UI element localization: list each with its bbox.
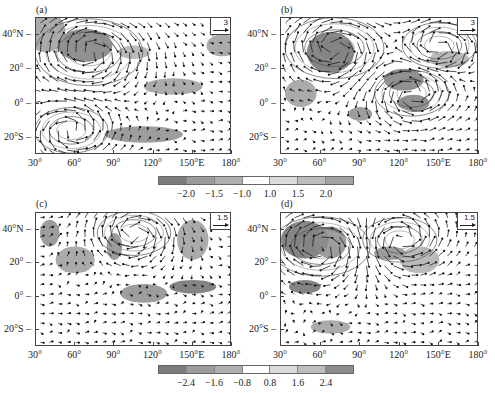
x-tick-mark (35, 150, 36, 154)
x-tick-mark (74, 342, 75, 346)
reference-vector-box-c: 1.5 (210, 213, 230, 230)
reference-arrow-icon (213, 30, 228, 31)
vector-field-plot (281, 213, 478, 346)
colorbar-bottom (158, 365, 354, 374)
y-tick-label: 20° – (0, 62, 31, 73)
x-tick-label: 90° (339, 349, 379, 360)
x-tick-label: 180° (211, 157, 251, 168)
reference-vector-value-c: 1.5 (217, 213, 228, 222)
colorbar-tick-label: 2.4 (311, 377, 341, 388)
colorbar-tick-label: 0.8 (255, 377, 285, 388)
reference-vector-value-b: 3 (471, 18, 475, 27)
y-tick-mark (35, 68, 39, 69)
y-tick-mark (280, 329, 284, 330)
y-tick-mark (280, 137, 284, 138)
x-tick-label: 30° (15, 349, 55, 360)
vector-field-plot (281, 18, 478, 154)
colorbar-segment (326, 177, 353, 184)
x-tick-label: 120° (133, 157, 173, 168)
y-tick-label: 20° – (0, 256, 31, 267)
x-tick-mark (280, 342, 281, 346)
reference-arrow-icon (460, 30, 475, 31)
x-tick-label: 180° (211, 349, 251, 360)
y-tick-label: 20°S – (244, 131, 276, 142)
x-tick-mark (113, 342, 114, 346)
y-tick-mark (35, 229, 39, 230)
vector-field-plot (36, 18, 231, 154)
colorbar-segment (187, 177, 215, 184)
y-tick-mark (35, 296, 39, 297)
y-tick-label: 40°N – (0, 28, 31, 39)
x-tick-mark (399, 342, 400, 346)
vector-field-plot (36, 213, 231, 346)
y-tick-mark (280, 103, 284, 104)
y-tick-label: 0° – (0, 97, 31, 108)
colorbar-segment (270, 366, 298, 373)
colorbar-segment (215, 177, 243, 184)
x-tick-label: 90° (93, 157, 133, 168)
y-tick-mark (35, 34, 39, 35)
y-tick-label: 0° – (244, 97, 276, 108)
x-tick-mark (320, 150, 321, 154)
x-tick-label: 150°E (418, 157, 458, 168)
x-tick-mark (399, 150, 400, 154)
colorbar-segment (270, 177, 298, 184)
y-tick-label: 0° – (244, 290, 276, 301)
x-tick-mark (438, 342, 439, 346)
y-tick-label: 40°N – (244, 28, 276, 39)
y-tick-label: 40°N – (244, 223, 276, 234)
x-tick-label: 60° (300, 157, 340, 168)
colorbar-segment (215, 366, 243, 373)
map-frame-a: 3 (35, 17, 231, 154)
x-tick-mark (359, 150, 360, 154)
y-tick-mark (35, 262, 39, 263)
x-tick-label: 150°E (172, 157, 212, 168)
x-tick-label: 30° (260, 349, 300, 360)
x-tick-mark (74, 150, 75, 154)
x-tick-label: 60° (54, 157, 94, 168)
y-tick-mark (280, 296, 284, 297)
reference-vector-box-a: 3 (210, 18, 230, 35)
colorbar-segment (326, 366, 353, 373)
map-frame-d: 1.5 (280, 212, 478, 346)
y-tick-label: 20°S – (0, 131, 31, 142)
panel-label-c: (c) (36, 198, 47, 209)
map-frame-b: 3 (280, 17, 478, 154)
reference-arrow-icon (460, 225, 475, 226)
y-tick-mark (35, 137, 39, 138)
colorbar-tick-label: −1.5 (199, 188, 229, 199)
x-tick-mark (231, 150, 232, 154)
panel-label-a: (a) (36, 4, 47, 15)
reference-vector-value-d: 1.5 (464, 213, 475, 222)
colorbar-segment (298, 366, 326, 373)
x-tick-mark (192, 342, 193, 346)
x-tick-label: 60° (54, 349, 94, 360)
x-tick-label: 180° (458, 349, 495, 360)
colorbar-segment (298, 177, 326, 184)
colorbar-segment (159, 366, 187, 373)
colorbar-tick-label: 1.6 (283, 377, 313, 388)
y-tick-mark (280, 262, 284, 263)
x-tick-mark (153, 342, 154, 346)
x-tick-mark (478, 342, 479, 346)
colorbar-tick-label: 2.0 (311, 188, 341, 199)
colorbar-segment (159, 177, 187, 184)
panel-label-d: (d) (281, 198, 293, 209)
x-tick-label: 120° (379, 157, 419, 168)
x-tick-label: 150°E (418, 349, 458, 360)
x-tick-label: 120° (133, 349, 173, 360)
y-tick-label: 20°S – (244, 323, 276, 334)
x-tick-mark (359, 342, 360, 346)
y-tick-label: 20°S – (0, 323, 31, 334)
colorbar-tick-label: −2.0 (171, 188, 201, 199)
x-tick-label: 90° (339, 157, 379, 168)
y-tick-mark (35, 329, 39, 330)
x-tick-mark (192, 150, 193, 154)
x-tick-label: 150°E (172, 349, 212, 360)
y-tick-mark (280, 68, 284, 69)
panel-label-b: (b) (281, 4, 293, 15)
x-tick-label: 180° (458, 157, 495, 168)
x-tick-label: 90° (93, 349, 133, 360)
colorbar-top (158, 176, 354, 185)
x-tick-label: 60° (300, 349, 340, 360)
